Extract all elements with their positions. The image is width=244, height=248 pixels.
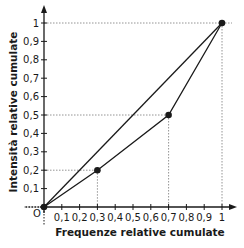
y-tick-label: 0,7 [23,73,39,84]
x-tick-label: 0,1 [54,212,70,223]
x-tick-label: 0,7 [161,212,177,223]
x-tick-label: 1 [219,212,225,223]
y-tick-label: 0,6 [23,91,39,102]
data-point-marker [165,112,172,119]
axes [24,5,237,226]
data-point-marker [219,20,226,27]
y-tick-label: 0,9 [23,36,39,47]
origin-label: O [33,208,41,219]
y-tick-label: 0,2 [23,165,39,176]
data-point-marker [94,167,101,174]
y-tick-label: 1 [33,18,39,29]
data-point-marker [41,204,48,211]
y-tick-label: 0,5 [23,110,39,121]
x-axis-arrow-icon [229,204,237,210]
x-tick-label: 0,6 [143,212,159,223]
x-axis-title: Frequenze relative cumulate [55,226,224,238]
y-axis-arrow-icon [41,5,47,13]
y-tick-label: 0,8 [23,54,39,65]
x-tick-label: 0,4 [107,212,123,223]
lorenz-chart: 0,10,20,30,40,50,60,70,80,910,10,20,30,4… [0,0,244,248]
x-tick-label: 0,2 [72,212,88,223]
y-tick-label: 0,1 [23,183,39,194]
y-axis-title: Intensità relative cumulate [7,32,19,193]
y-tick-label: 0,3 [23,146,39,157]
ticks: 0,10,20,30,40,50,60,70,80,910,10,20,30,4… [23,18,225,224]
x-tick-label: 0,8 [178,212,194,223]
equidistribution-line [44,23,222,207]
guide-lines [44,23,232,207]
x-tick-label: 0,5 [125,212,141,223]
y-tick-label: 0,4 [23,128,39,139]
x-tick-label: 0,3 [89,212,105,223]
x-tick-label: 0,9 [196,212,212,223]
